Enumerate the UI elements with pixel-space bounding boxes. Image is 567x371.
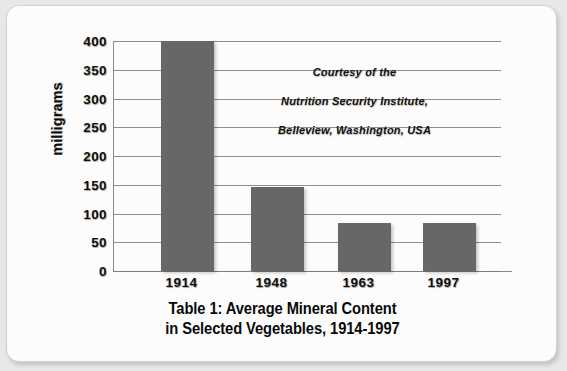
y-tick-400: 400 (61, 35, 107, 49)
screenshot-root: milligrams 400 350 300 250 200 150 100 5… (0, 0, 567, 371)
chart-card: milligrams 400 350 300 250 200 150 100 5… (6, 5, 557, 362)
bar-chart: milligrams 400 350 300 250 200 150 100 5… (7, 6, 557, 362)
x-axis-line (113, 271, 502, 272)
y-tick-250: 250 (61, 121, 107, 135)
x-tick-1997: 1997 (397, 275, 490, 290)
y-tick-150: 150 (61, 179, 107, 193)
y-tick-200: 200 (61, 150, 107, 164)
annotation-line-2: Nutrition Security Institute, (217, 87, 492, 116)
x-tick-1948: 1948 (225, 275, 318, 290)
annotation-line-1: Courtesy of the (217, 58, 492, 87)
annotation-line-3: Belleview, Washington, USA (217, 116, 492, 145)
y-tick-0: 0 (61, 265, 107, 279)
y-tick-100: 100 (61, 208, 107, 222)
x-axis-tail (501, 271, 512, 272)
chart-title-line-2: in Selected Vegetables, 1914-1997 (29, 319, 536, 339)
y-tick-50: 50 (61, 236, 107, 250)
y-axis-ticks: 400 350 300 250 200 150 100 50 0 (55, 41, 107, 272)
y-tick-300: 300 (61, 93, 107, 107)
bar-1963 (338, 223, 391, 271)
chart-title-line-1: Table 1: Average Mineral Content (29, 299, 536, 319)
chart-title: Table 1: Average Mineral Content in Sele… (7, 299, 557, 339)
bar-1914 (161, 41, 214, 271)
y-tick-350: 350 (61, 64, 107, 78)
bar-1997 (423, 223, 476, 271)
chart-annotation: Courtesy of the Nutrition Security Insti… (217, 58, 492, 144)
x-tick-1914: 1914 (135, 275, 228, 290)
x-tick-1963: 1963 (312, 275, 405, 290)
bar-1948 (251, 187, 304, 271)
